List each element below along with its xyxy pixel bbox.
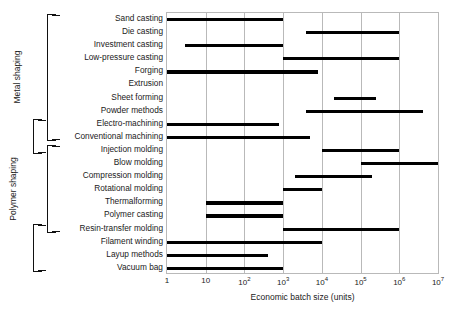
process-label: Extrusion bbox=[62, 77, 166, 90]
process-group-brackets: Metal shapingCeramic shapingPolymer shap… bbox=[0, 0, 62, 319]
process-group: Polymer shaping bbox=[0, 145, 62, 233]
range-bar bbox=[322, 149, 399, 152]
process-economic-batch-size-chart: Metal shapingCeramic shapingPolymer shap… bbox=[0, 0, 458, 319]
process-label: Thermalforming bbox=[62, 195, 166, 208]
range-bar bbox=[206, 201, 283, 204]
process-label: Resin-transfer molding bbox=[62, 222, 166, 235]
chart-row bbox=[167, 105, 438, 118]
chart-row bbox=[167, 262, 438, 275]
x-tick-label: 107 bbox=[432, 276, 444, 287]
x-axis-tick-labels: 110102103104105106107 bbox=[166, 276, 439, 292]
process-label: Blow molding bbox=[62, 156, 166, 169]
process-label: Low-pressure casting bbox=[62, 51, 166, 64]
chart-row bbox=[167, 39, 438, 52]
group-label: Metal shaping bbox=[13, 51, 23, 104]
range-bar bbox=[167, 136, 310, 139]
process-label: Powder methods bbox=[62, 104, 166, 117]
process-label: Forging bbox=[62, 64, 166, 77]
range-bar bbox=[283, 57, 399, 60]
process-label: Polymer casting bbox=[62, 208, 166, 221]
chart-row bbox=[167, 157, 438, 170]
chart-row bbox=[167, 13, 438, 26]
chart-row bbox=[167, 92, 438, 105]
process-label: Investment casting bbox=[62, 38, 166, 51]
process-label: Electro-machining bbox=[62, 117, 166, 130]
chart-row bbox=[167, 26, 438, 39]
x-axis-title: Economic batch size (units) bbox=[166, 292, 439, 302]
process-label: Die casting bbox=[62, 25, 166, 38]
chart-row bbox=[167, 131, 438, 144]
gridline bbox=[438, 13, 439, 273]
x-tick-label: 10 bbox=[201, 276, 210, 285]
chart-row bbox=[167, 52, 438, 65]
process-label-column: Sand castingDie castingInvestment castin… bbox=[62, 12, 166, 274]
range-bar bbox=[306, 31, 399, 34]
chart-row bbox=[167, 118, 438, 131]
range-bar bbox=[283, 228, 399, 231]
range-bar bbox=[167, 123, 279, 126]
chart-row bbox=[167, 170, 438, 183]
process-label: Sand casting bbox=[62, 12, 166, 25]
range-bar bbox=[283, 188, 322, 191]
chart-row bbox=[167, 236, 438, 249]
process-label: Injection molding bbox=[62, 143, 166, 156]
process-label: Conventional machining bbox=[62, 130, 166, 143]
chart-row bbox=[167, 210, 438, 223]
x-tick-label: 1 bbox=[165, 276, 169, 285]
range-bar bbox=[206, 214, 283, 217]
range-bar bbox=[167, 254, 268, 257]
range-bar bbox=[306, 110, 422, 113]
x-tick-label: 102 bbox=[238, 276, 250, 287]
chart-row bbox=[167, 223, 438, 236]
range-bar bbox=[167, 241, 322, 244]
chart-row bbox=[167, 249, 438, 262]
range-bar bbox=[361, 162, 438, 165]
chart-row bbox=[167, 196, 438, 209]
x-tick-label: 103 bbox=[277, 276, 289, 287]
range-bar bbox=[295, 175, 372, 178]
process-label: Layup methods bbox=[62, 248, 166, 261]
process-label: Compression molding bbox=[62, 169, 166, 182]
x-tick-label: 106 bbox=[393, 276, 405, 287]
range-bar bbox=[334, 97, 376, 100]
range-bar bbox=[167, 70, 318, 73]
chart-row bbox=[167, 79, 438, 92]
process-label: Sheet forming bbox=[62, 91, 166, 104]
range-bar bbox=[167, 18, 283, 21]
x-tick-label: 105 bbox=[354, 276, 366, 287]
x-tick-label: 104 bbox=[316, 276, 328, 287]
group-bracket bbox=[47, 145, 56, 233]
range-bar bbox=[185, 44, 283, 47]
chart-row bbox=[167, 65, 438, 78]
process-group: Composite shaping bbox=[0, 224, 62, 272]
process-label: Rotational molding bbox=[62, 182, 166, 195]
chart-row bbox=[167, 144, 438, 157]
range-bar bbox=[167, 267, 283, 270]
chart-row bbox=[167, 183, 438, 196]
group-bracket bbox=[33, 224, 42, 272]
process-label: Vacuum bag bbox=[62, 261, 166, 274]
group-label: Polymer shaping bbox=[7, 157, 17, 220]
process-label: Filament winding bbox=[62, 235, 166, 248]
plot-area bbox=[166, 12, 439, 274]
